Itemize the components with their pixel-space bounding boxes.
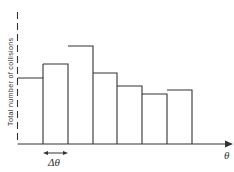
x-axis-arrow-icon (225, 141, 233, 148)
bar-5 (117, 86, 142, 144)
y-axis-label: Total number of collisions (6, 37, 15, 126)
delta-theta-arrow-icon (43, 151, 68, 155)
histogram-diagram: Total number of collisions Δθ θ (0, 0, 234, 172)
bar-4 (93, 73, 117, 144)
bar-2 (43, 64, 68, 144)
delta-theta-label: Δθ (47, 156, 60, 168)
x-axis-label: θ (224, 149, 230, 161)
bar-3 (68, 46, 93, 144)
bar-6 (142, 94, 167, 144)
bar-7 (167, 90, 192, 144)
bar-1 (18, 78, 44, 144)
bars (18, 46, 193, 144)
